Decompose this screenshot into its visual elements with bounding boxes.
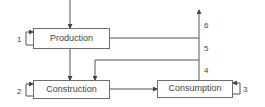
node-production-label: Production <box>50 33 93 43</box>
trunk-to-construction-arrow <box>95 60 199 80</box>
consumption-self-loop-icon <box>232 83 240 94</box>
node-consumption: Consumption <box>158 81 233 98</box>
production-self-loop-icon <box>26 32 33 45</box>
node-production: Production <box>34 29 110 49</box>
consumption-loop-label: 3 <box>243 85 248 94</box>
node-construction: Construction <box>34 81 110 99</box>
node-construction-label: Construction <box>46 84 97 94</box>
node-consumption-label: Consumption <box>168 83 221 93</box>
flow-label-4: 4 <box>204 66 209 75</box>
construction-loop-label: 2 <box>17 87 22 96</box>
flow-diagram: Production 1 Construction 2 Consumption … <box>0 0 265 107</box>
flow-label-5: 5 <box>204 44 209 53</box>
flow-label-6: 6 <box>204 21 209 30</box>
production-loop-label: 1 <box>17 35 22 44</box>
construction-self-loop-icon <box>26 84 33 96</box>
